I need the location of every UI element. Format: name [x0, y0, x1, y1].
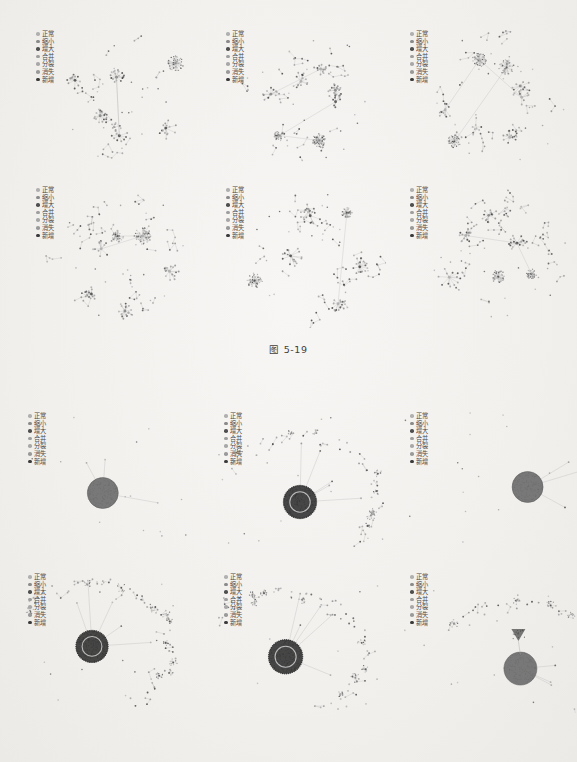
legend-dot-merge: [410, 55, 414, 59]
legend-item: 新增: [410, 458, 428, 466]
legend-item: 正常: [28, 412, 46, 420]
legend-dot-merge: [410, 437, 414, 441]
figure-5-19-panel-1[interactable]: 正常 缩小 增大 合并 分裂 消失 新增: [28, 18, 196, 170]
legend-item: 新增: [226, 76, 244, 84]
legend-5-20-6: 正常 缩小 增大 合并 分裂 消失 新增: [410, 573, 428, 626]
legend-label: 增大: [42, 45, 54, 53]
legend-dot-shrink: [410, 583, 414, 587]
legend-dot-grow: [28, 429, 32, 433]
figure-5-19-panel-3[interactable]: 正常 缩小 增大 合并 分裂 消失 新增: [404, 18, 572, 170]
legend-item: 正常: [28, 573, 46, 581]
network-graph-3: [404, 18, 572, 170]
legend-item: 正常: [410, 412, 428, 420]
figure-5-20-panel-6[interactable]: 正常 缩小 增大 合并 分裂 消失 新增: [398, 565, 577, 713]
figure-5-20-panel-4[interactable]: 正常 缩小 增大 合并 分裂 消失 新增: [20, 565, 200, 713]
legend-label: 增大: [34, 427, 46, 435]
legend-dot-shrink: [36, 40, 40, 44]
legend-dot-normal: [28, 414, 32, 418]
figure-5-20-panel-3[interactable]: 正常 缩小 增大 合并 分裂 消失 新增: [398, 400, 577, 550]
figure-5-19-panel-5[interactable]: 正常 缩小 增大 合并 分裂 消失 新增: [218, 178, 386, 328]
legend-item: 新增: [28, 458, 46, 466]
legend-item: 新增: [410, 232, 428, 240]
legend-label: 新增: [232, 231, 244, 239]
legend-dot-disappear: [226, 70, 230, 74]
legend-item: 正常: [36, 30, 54, 38]
legend-dot-split: [224, 444, 228, 448]
legend-dot-merge: [226, 211, 230, 215]
legend-item: 增大: [226, 45, 244, 53]
legend-dot-shrink: [28, 422, 32, 426]
legend-dot-normal: [224, 414, 228, 418]
legend-dot-shrink: [226, 40, 230, 44]
legend-item: 新增: [36, 232, 54, 240]
legend-dot-merge: [410, 211, 414, 215]
legend-item: 新增: [410, 619, 428, 627]
legend-dot-split: [36, 62, 40, 66]
figure-5-20-panel-5[interactable]: 正常 缩小 增大 合并 分裂 消失 新增: [210, 565, 390, 713]
legend-dot-disappear: [410, 226, 414, 230]
legend-dot-disappear: [36, 226, 40, 230]
legend-label: 消失: [34, 450, 46, 458]
legend-label: 正常: [42, 186, 54, 194]
legend-dot-new: [28, 621, 32, 625]
legend-item: 增大: [28, 588, 46, 596]
legend-dot-normal: [28, 575, 32, 579]
figure-5-20-panel-2[interactable]: 正常 缩小 增大 合并 分裂 消失 新增: [210, 400, 390, 550]
legend-dot-new: [224, 460, 228, 464]
legend-item: 正常: [226, 186, 244, 194]
legend-dot-normal: [36, 32, 40, 36]
legend-label: 消失: [42, 224, 54, 232]
legend-label: 增大: [230, 588, 242, 596]
legend-item: 正常: [224, 412, 242, 420]
legend-dot-disappear: [410, 70, 414, 74]
legend-dot-new: [410, 460, 414, 464]
figure-5-20-panel-1[interactable]: 正常 缩小 增大 合并 分裂 消失 新增: [20, 400, 200, 550]
legend-label: 正常: [416, 186, 428, 194]
legend-label: 新增: [42, 75, 54, 83]
legend-dot-merge: [224, 598, 228, 602]
legend-dot-normal: [410, 414, 414, 418]
figure-5-19-panel-2[interactable]: 正常 缩小 增大 合并 分裂 消失 新增: [218, 18, 386, 170]
legend-dot-grow: [36, 47, 40, 51]
figure-5-19-panel-6[interactable]: 正常 缩小 增大 合并 分裂 消失 新增: [404, 178, 572, 328]
legend-dot-disappear: [226, 226, 230, 230]
legend-label: 消失: [416, 611, 428, 619]
figure-5-19-panel-4[interactable]: 正常 缩小 增大 合并 分裂 消失 新增: [28, 178, 196, 328]
legend-dot-shrink: [410, 196, 414, 200]
legend-dot-merge: [36, 211, 40, 215]
legend-dot-merge: [28, 598, 32, 602]
legend-item: 增大: [224, 588, 242, 596]
legend-dot-merge: [224, 437, 228, 441]
legend-label: 正常: [34, 412, 46, 420]
legend-label: 增大: [416, 588, 428, 596]
legend-label: 消失: [232, 68, 244, 76]
legend-label: 增大: [42, 201, 54, 209]
legend-dot-disappear: [410, 613, 414, 617]
legend-item: 消失: [410, 224, 428, 232]
legend-dot-grow: [410, 590, 414, 594]
legend-5-20-1: 正常 缩小 增大 合并 分裂 消失 新增: [28, 412, 46, 465]
legend-label: 新增: [34, 618, 46, 626]
legend-dot-shrink: [410, 40, 414, 44]
legend-item: 消失: [224, 450, 242, 458]
legend-label: 增大: [232, 201, 244, 209]
legend-dot-split: [410, 218, 414, 222]
legend-label: 新增: [34, 457, 46, 465]
legend-dot-new: [36, 234, 40, 238]
hub-graph-1: [20, 400, 200, 550]
legend-dot-shrink: [28, 583, 32, 587]
legend-5-19-2: 正常 缩小 增大 合并 分裂 消失 新增: [226, 30, 244, 83]
legend-dot-normal: [36, 188, 40, 192]
legend-label: 新增: [416, 231, 428, 239]
legend-5-19-6: 正常 缩小 增大 合并 分裂 消失 新增: [410, 186, 428, 239]
legend-dot-new: [226, 78, 230, 82]
legend-item: 消失: [28, 450, 46, 458]
legend-label: 新增: [230, 457, 242, 465]
legend-5-20-4: 正常 缩小 增大 合并 分裂 消失 新增: [28, 573, 46, 626]
legend-label: 新增: [416, 75, 428, 83]
legend-item: 新增: [28, 619, 46, 627]
legend-item: 消失: [28, 611, 46, 619]
legend-item: 消失: [410, 450, 428, 458]
legend-item: 消失: [224, 611, 242, 619]
legend-item: 正常: [410, 30, 428, 38]
